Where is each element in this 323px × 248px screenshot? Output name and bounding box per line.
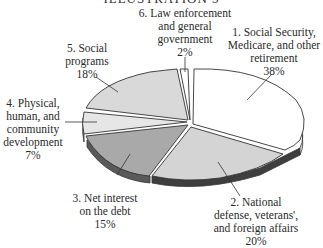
label-line: community: [0, 123, 66, 136]
label-line: 3. Net interest: [55, 192, 155, 205]
label-line: 6. Law enforcement: [135, 7, 235, 20]
label-physical-development: 4. Physical, human, and community develo…: [0, 97, 66, 162]
label-percent: 18%: [52, 68, 122, 81]
label-line: government: [135, 33, 235, 46]
label-line: Medicare, and other: [224, 39, 323, 52]
label-line: human, and: [0, 110, 66, 123]
label-percent: 38%: [224, 65, 323, 78]
label-line: and foreign affairs: [196, 222, 316, 235]
label-line: and general: [135, 20, 235, 33]
label-percent: 20%: [196, 235, 316, 248]
label-percent: 7%: [0, 149, 66, 162]
label-percent: 15%: [55, 218, 155, 231]
label-percent: 2%: [135, 46, 235, 59]
label-social-security: 1. Social Security, Medicare, and other …: [224, 26, 323, 78]
label-line: 1. Social Security,: [224, 26, 323, 39]
label-line: development: [0, 136, 66, 149]
label-line: 5. Social: [52, 42, 122, 55]
label-national-defense: 2. National defense, veterans', and fore…: [196, 196, 316, 248]
label-line: defense, veterans',: [196, 209, 316, 222]
label-net-interest: 3. Net interest on the debt 15%: [55, 192, 155, 231]
label-line: retirement: [224, 52, 323, 65]
label-social-programs: 5. Social programs 18%: [52, 42, 122, 81]
label-line: 2. National: [196, 196, 316, 209]
label-line: 4. Physical,: [0, 97, 66, 110]
label-line: on the debt: [55, 205, 155, 218]
label-line: programs: [52, 55, 122, 68]
label-law-enforcement: 6. Law enforcement and general governmen…: [135, 7, 235, 59]
